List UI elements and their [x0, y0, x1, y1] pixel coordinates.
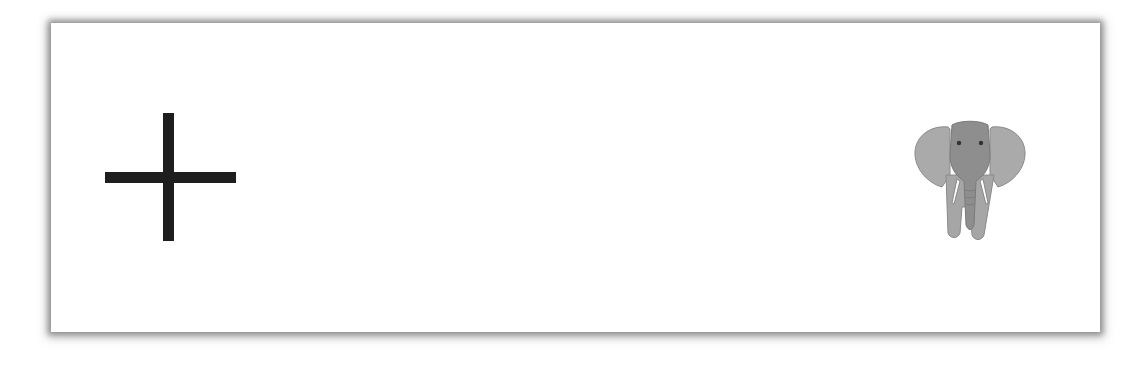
fixation-cross-icon — [105, 113, 236, 241]
cross-vertical-bar — [163, 113, 174, 241]
elephant-image — [910, 115, 1030, 245]
elephant-icon — [910, 115, 1030, 245]
